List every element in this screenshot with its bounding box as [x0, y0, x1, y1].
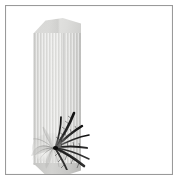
box-front-face — [33, 33, 81, 165]
photo-frame — [5, 5, 173, 175]
bottom-margin — [5, 180, 173, 186]
box-top-crease — [33, 18, 81, 34]
screenshot-canvas — [0, 0, 180, 186]
frame-inner-shading — [6, 6, 172, 174]
box-top-face — [33, 18, 81, 34]
box-corner-fold — [63, 33, 64, 165]
box-pinstripe-texture — [33, 33, 81, 165]
product-box — [33, 18, 81, 175]
box-bottom-face — [33, 163, 81, 175]
